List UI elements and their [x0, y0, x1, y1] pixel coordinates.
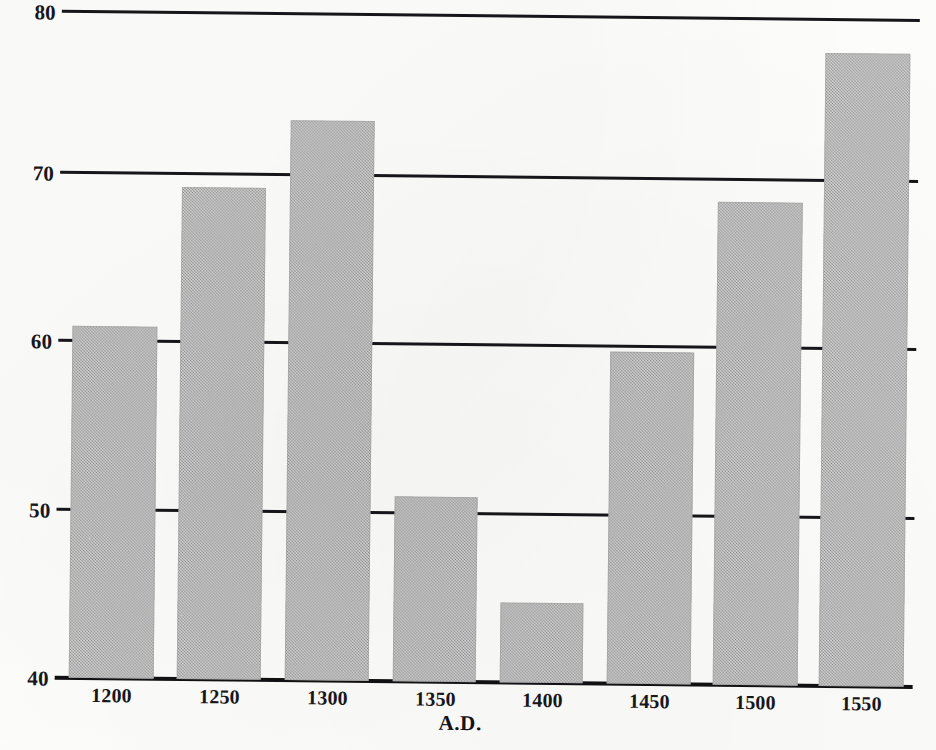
x-tick-label-1250: 1250 — [176, 686, 262, 707]
y-tick-label-80: 80 — [10, 2, 56, 23]
bar-1450 — [607, 352, 695, 685]
x-tick-label-1200: 1200 — [68, 685, 154, 706]
bar-1300 — [285, 120, 375, 681]
bars-group — [0, 0, 936, 750]
y-tick-label-60: 60 — [6, 331, 52, 352]
y-tick-label-40: 40 — [3, 668, 49, 689]
y-axis-tick-labels: 8070605040 — [0, 0, 56, 750]
bar-1550 — [819, 53, 911, 687]
bar-1250 — [177, 187, 266, 680]
bar-1400 — [500, 602, 584, 683]
y-tick-label-70: 70 — [8, 163, 54, 184]
x-tick-label-1400: 1400 — [499, 689, 585, 710]
x-tick-label-1550: 1550 — [818, 693, 904, 714]
bar-1200 — [69, 326, 158, 679]
bar-chart-figure: 8070605040 12001250130013501400145015001… — [0, 0, 936, 750]
y-tick-label-50: 50 — [4, 500, 50, 521]
bar-1350 — [393, 496, 478, 682]
x-tick-label-1500: 1500 — [712, 692, 798, 713]
x-tick-label-1450: 1450 — [606, 691, 692, 712]
x-tick-label-1350: 1350 — [392, 688, 478, 709]
bar-1500 — [713, 202, 803, 686]
x-tick-label-1300: 1300 — [284, 687, 370, 708]
plot-area: 8070605040 12001250130013501400145015001… — [0, 0, 936, 750]
